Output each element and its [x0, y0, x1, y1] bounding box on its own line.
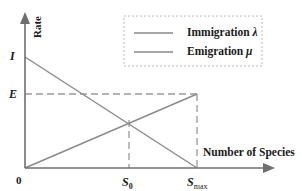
x-axis-label: Number of Species — [203, 146, 295, 158]
y-axis-arrow-icon — [20, 12, 30, 24]
legend-immigration-text: Immigration — [187, 26, 250, 38]
legend-immigration-label: Immigration λ — [187, 26, 258, 38]
legend-immigration-symbol: λ — [252, 26, 257, 38]
x-tick-smax-sub: max — [194, 182, 208, 191]
x-tick-smax: Smax — [187, 175, 207, 191]
legend-emigration-symbol: μ — [246, 45, 252, 57]
x-tick-s0-sub: 0 — [129, 182, 133, 191]
y-tick-i: I — [10, 49, 15, 64]
x-tick-s0: S0 — [122, 175, 133, 191]
legend-emigration-label: Emigration μ — [187, 45, 253, 57]
legend-box — [124, 16, 262, 66]
x-tick-s0-main: S — [122, 175, 129, 189]
x-tick-smax-main: S — [187, 175, 194, 189]
legend-emigration-text: Emigration — [187, 45, 243, 57]
y-axis-label: Rate — [31, 16, 43, 38]
y-tick-e: E — [9, 87, 17, 102]
origin-label: 0 — [16, 174, 22, 186]
immigration-line — [25, 57, 197, 168]
emigration-line — [25, 94, 197, 168]
x-axis-arrow-icon — [263, 163, 275, 173]
